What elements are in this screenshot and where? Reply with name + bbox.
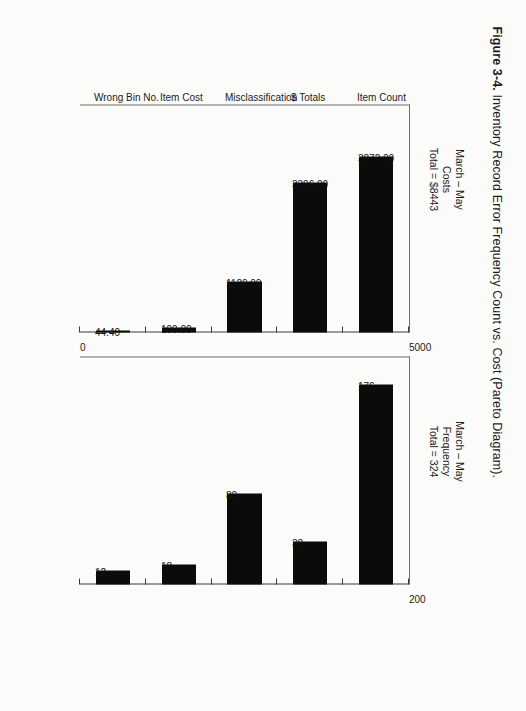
axis-tick: [211, 326, 212, 332]
bar-value-label: 3306.00: [292, 178, 328, 189]
pareto-figure: Figure 3-4. Inventory Record Error Frequ…: [0, 0, 526, 711]
axis-tick: [408, 578, 409, 584]
freq-subtitle-period: March – May: [453, 376, 466, 526]
cost-subtitle-period: March – May: [453, 104, 466, 254]
frequency-panel-subtitle: March – May Frequency Total = 324: [427, 376, 466, 526]
figure-caption: Figure 3-4. Inventory Record Error Frequ…: [490, 26, 504, 686]
cost-subtitle-measure: Costs: [440, 104, 453, 254]
freq-subtitle-total: Total = 324: [427, 376, 440, 526]
cost-subtitle-total: Total = $8443: [427, 104, 440, 254]
bar-value-label: 100.00: [161, 323, 192, 334]
figure-number: Figure 3-4.: [490, 26, 504, 90]
axis-tick: [211, 578, 212, 584]
axis-tick-label: 200: [409, 593, 426, 604]
bar-value-label: 1120.00: [226, 277, 261, 288]
cost-panel-subtitle: March – May Costs Total = $8443: [427, 104, 466, 254]
axis-tick: [145, 326, 146, 332]
frequency-bar-panel: 20017638801812: [80, 356, 410, 584]
bar: [359, 156, 393, 332]
bar-value-label: 18: [161, 560, 172, 571]
axis-tick: [342, 326, 343, 332]
axis-tick: [342, 578, 343, 584]
freq-subtitle-measure: Frequency: [440, 376, 453, 526]
category-label: Item Cost: [160, 91, 203, 102]
cost-bar-panel: 050003872.00Item Count3306.00$ Totals112…: [80, 104, 410, 332]
axis-tick: [276, 578, 277, 584]
category-label: Item Count: [357, 91, 406, 102]
bar-value-label: 176: [358, 380, 375, 391]
axis-tick: [276, 326, 277, 332]
axis-tick: [79, 578, 80, 584]
bar: [227, 281, 261, 332]
bar-value-label: 12: [95, 566, 106, 577]
category-label: Misclassification: [225, 91, 297, 102]
axis-tick-label: 0: [80, 341, 86, 352]
bar-value-label: 80: [226, 489, 237, 500]
bar: [359, 384, 393, 584]
bar: [227, 493, 261, 584]
bar-value-label: 44.40: [95, 326, 120, 337]
bar-value-label: 3872.00: [358, 152, 394, 163]
axis-tick-label: 5000: [409, 341, 431, 352]
figure-caption-text: Inventory Record Error Frequency Count v…: [490, 94, 504, 478]
axis-tick: [145, 578, 146, 584]
bar: [293, 182, 327, 332]
figure-rotation-wrapper: Figure 3-4. Inventory Record Error Frequ…: [0, 0, 526, 711]
bar-value-label: 38: [292, 537, 303, 548]
axis-tick: [408, 326, 409, 332]
axis-tick: [79, 326, 80, 332]
category-label: Wrong Bin No.: [94, 91, 159, 102]
